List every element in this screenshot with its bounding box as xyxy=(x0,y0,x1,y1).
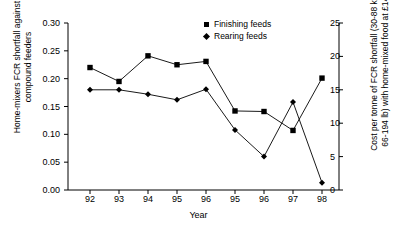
data-point-square xyxy=(145,53,150,58)
data-point-diamond xyxy=(116,87,122,93)
data-point-square xyxy=(261,109,266,114)
data-point-diamond xyxy=(203,86,209,92)
legend-item-finishing-feeds: Finishing feeds xyxy=(204,18,271,30)
legend-label-finishing-feeds: Finishing feeds xyxy=(214,18,271,30)
diamond-marker-icon xyxy=(203,32,210,39)
x-axis-title: Year xyxy=(0,210,397,220)
data-point-diamond xyxy=(319,180,325,186)
chart-legend: Finishing feeds Rearing feeds xyxy=(204,18,271,42)
data-point-square xyxy=(290,128,295,133)
series-line-finishing-feeds xyxy=(90,56,322,131)
data-point-square xyxy=(87,65,92,70)
data-point-diamond xyxy=(174,97,180,103)
data-point-square xyxy=(203,59,208,64)
data-point-square xyxy=(232,108,237,113)
legend-item-rearing-feeds: Rearing feeds xyxy=(204,30,271,42)
data-point-square xyxy=(116,79,121,84)
data-point-diamond xyxy=(290,99,296,105)
data-point-diamond xyxy=(87,87,93,93)
data-point-square xyxy=(174,62,179,67)
legend-label-rearing-feeds: Rearing feeds xyxy=(214,30,267,42)
data-point-square xyxy=(319,75,324,80)
square-marker-icon xyxy=(204,22,209,27)
chart-container: Home-mixers FCR shortfall against compou… xyxy=(0,0,397,231)
series-line-rearing-feeds xyxy=(90,89,322,183)
plot-area xyxy=(0,0,397,231)
data-point-diamond xyxy=(145,91,151,97)
